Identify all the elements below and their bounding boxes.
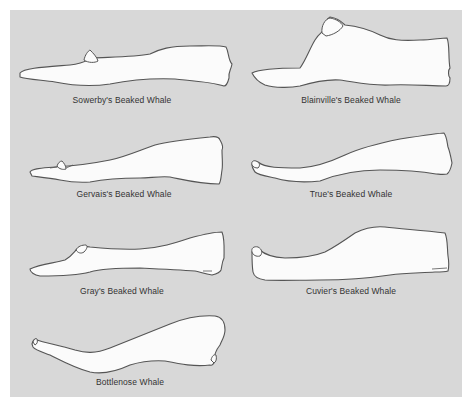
skull-label: Cuvier's Beaked Whale	[306, 286, 396, 296]
grays-skull-icon	[30, 232, 224, 276]
trues-skull-icon	[252, 133, 452, 182]
skull-label: Gervais's Beaked Whale	[76, 189, 171, 199]
skull-label: Bottlenose Whale	[96, 377, 164, 387]
gervais-skull-icon	[30, 137, 223, 184]
skull-label: Gray's Beaked Whale	[80, 286, 164, 296]
skull-label: Sowerby's Beaked Whale	[73, 95, 172, 105]
skull-illustrations	[0, 0, 471, 408]
skull-label: Blainville's Beaked Whale	[301, 95, 401, 105]
bottlenose-skull-icon	[32, 316, 225, 373]
sowerbys-skull-icon	[20, 46, 232, 86]
cuviers-skull-icon	[252, 227, 449, 281]
skull-label: True's Beaked Whale	[310, 189, 393, 199]
blainvilles-skull-icon	[252, 17, 450, 87]
